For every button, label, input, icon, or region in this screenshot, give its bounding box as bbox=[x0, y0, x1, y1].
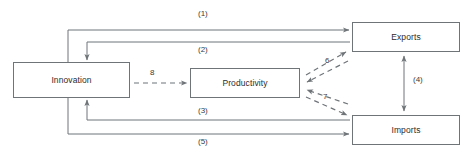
edge-label-4: (4) bbox=[413, 75, 423, 84]
edge-7-to-productivity bbox=[307, 90, 348, 104]
node-productivity-label: Productivity bbox=[222, 78, 267, 88]
edge-label-6: 6 bbox=[325, 56, 329, 65]
edge-label-7: 7 bbox=[323, 92, 327, 101]
node-productivity[interactable]: Productivity bbox=[190, 68, 300, 98]
edge-3-imports-to-innovation bbox=[87, 100, 350, 120]
node-exports-label: Exports bbox=[391, 32, 421, 42]
edge-label-8: 8 bbox=[150, 68, 154, 77]
edge-label-1: (1) bbox=[198, 9, 208, 18]
edge-2-exports-to-innovation bbox=[87, 42, 350, 60]
node-imports-label: Imports bbox=[391, 125, 420, 135]
edge-label-5: (5) bbox=[198, 137, 208, 146]
edge-5-innovation-to-imports bbox=[68, 98, 349, 134]
edge-label-3: (3) bbox=[198, 106, 208, 115]
node-innovation-label: Innovation bbox=[51, 75, 91, 85]
node-exports[interactable]: Exports bbox=[352, 22, 460, 52]
edge-label-2: (2) bbox=[198, 45, 208, 54]
edge-1-innovation-to-exports bbox=[68, 30, 349, 62]
node-imports[interactable]: Imports bbox=[352, 115, 460, 145]
node-innovation[interactable]: Innovation bbox=[13, 62, 130, 98]
diagram-canvas: Innovation Productivity Exports Imports … bbox=[0, 0, 473, 157]
